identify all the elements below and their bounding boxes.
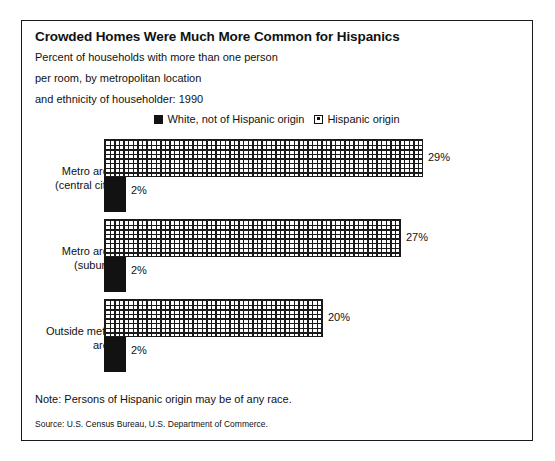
- bar-value-white-metro-central-city: 2%: [131, 184, 147, 196]
- category-label-line-1: Metro area: [0, 244, 115, 258]
- bar-hispanic-outside-metro: [104, 299, 323, 337]
- bar-value-white-outside-metro: 2%: [131, 344, 147, 356]
- bar-group-metro-suburb: Metro area (suburb) 27% 2%: [22, 219, 532, 297]
- category-label-line-2: (suburb): [0, 258, 115, 272]
- bar-value-hispanic-outside-metro: 20%: [328, 311, 350, 323]
- plot-area: Metro area (central city) 29% 2% Metro a…: [22, 21, 532, 440]
- bar-hispanic-metro-suburb: [104, 219, 401, 257]
- category-label-line-2: area: [0, 338, 115, 352]
- bar-white-metro-suburb: [104, 257, 126, 292]
- chart-note: Note: Persons of Hispanic origin may be …: [35, 393, 292, 405]
- category-label-outside-metro: Outside metro area: [0, 324, 115, 352]
- bar-hispanic-metro-central-city: [104, 139, 423, 177]
- bar-group-metro-central-city: Metro area (central city) 29% 2%: [22, 139, 532, 217]
- chart-source: Source: U.S. Census Bureau, U.S. Departm…: [35, 419, 268, 429]
- bar-value-white-metro-suburb: 2%: [131, 264, 147, 276]
- category-label-line-1: Outside metro: [0, 324, 115, 338]
- category-label-metro-suburb: Metro area (suburb): [0, 244, 115, 272]
- category-label-line-2: (central city): [0, 178, 115, 192]
- chart-figure: Crowded Homes Were Much More Common for …: [21, 20, 533, 441]
- bar-value-hispanic-metro-suburb: 27%: [406, 231, 428, 243]
- category-label-line-1: Metro area: [0, 164, 115, 178]
- bar-group-outside-metro: Outside metro area 20% 2%: [22, 299, 532, 377]
- bar-white-metro-central-city: [104, 177, 126, 212]
- category-label-metro-central-city: Metro area (central city): [0, 164, 115, 192]
- bar-white-outside-metro: [104, 337, 126, 372]
- bar-value-hispanic-metro-central-city: 29%: [428, 151, 450, 163]
